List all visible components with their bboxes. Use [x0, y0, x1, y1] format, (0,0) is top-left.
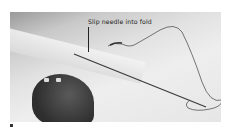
needle-icon — [74, 54, 206, 107]
thread-icon — [108, 26, 221, 100]
needle-thread-drawing — [10, 12, 221, 122]
annotation-label: Slip needle into fold — [88, 18, 152, 25]
sewing-photo — [10, 12, 221, 122]
annotation-pointer — [88, 27, 89, 52]
caption-marker — [10, 124, 13, 127]
